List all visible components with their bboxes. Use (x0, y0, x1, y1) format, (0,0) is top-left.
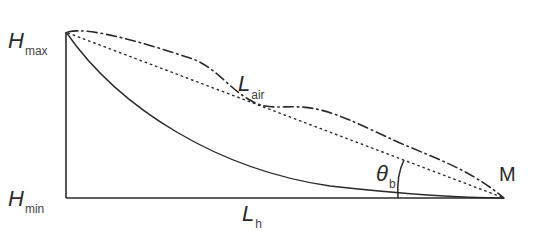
l-h-label: Lh (242, 203, 262, 225)
h-max-main: H (8, 28, 24, 53)
l-air-main: L (238, 71, 250, 96)
h-min-sub: min (25, 202, 44, 216)
h-max-sub: max (25, 44, 48, 58)
l-h-main: L (242, 201, 254, 226)
h-min-label: Hmin (8, 188, 44, 210)
h-min-main: H (8, 186, 24, 211)
theta-b-label: θb (376, 163, 396, 185)
l-h-sub: h (255, 217, 262, 231)
theta-b-sub: b (389, 177, 396, 191)
l-air-sub: air (251, 88, 264, 102)
l-air-label: Lair (238, 73, 265, 95)
h-max-label: Hmax (8, 30, 48, 52)
diagram-canvas (0, 0, 540, 238)
dotted-line (68, 33, 504, 198)
m-label: M (499, 164, 516, 184)
theta-b-main: θ (376, 161, 388, 186)
m-main: M (499, 163, 516, 185)
